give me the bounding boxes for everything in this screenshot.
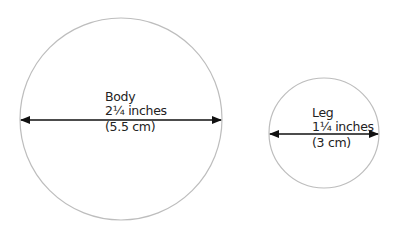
leg-label-name: Leg	[312, 106, 333, 120]
leg-label-cm: (3 cm)	[312, 136, 351, 150]
diagram-canvas	[0, 0, 402, 230]
leg-label-inches: 1¼ inches	[312, 120, 374, 134]
body-label-name: Body	[105, 90, 135, 104]
body-label-cm: (5.5 cm)	[105, 120, 155, 134]
body-label-inches: 2¼ inches	[105, 104, 167, 118]
